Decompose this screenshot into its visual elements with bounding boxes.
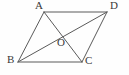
vertex-label-o: O (57, 37, 65, 48)
vertex-label-d: D (110, 0, 118, 11)
vertex-label-a: A (35, 0, 43, 11)
geometry-figure: A D B C O (0, 0, 129, 75)
vertex-label-b: B (7, 54, 14, 65)
vertex-label-c: C (85, 55, 92, 66)
